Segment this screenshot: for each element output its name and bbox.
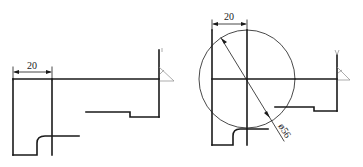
right-view: 20 ø56 [199, 11, 350, 145]
left-bottom-step [13, 136, 79, 155]
right-dimension-label: 20 [224, 11, 234, 22]
drawing-canvas: 20 20 [0, 0, 363, 167]
left-dimension-20: 20 [13, 60, 52, 80]
left-roughness-symbol [159, 48, 174, 81]
left-right-step [86, 112, 159, 117]
left-dimension-label: 20 [27, 60, 37, 71]
left-view: 20 [13, 48, 174, 155]
diameter-label: ø56 [276, 121, 293, 140]
right-bottom-step [212, 129, 268, 145]
right-dimension-20: 20 [212, 11, 247, 30]
